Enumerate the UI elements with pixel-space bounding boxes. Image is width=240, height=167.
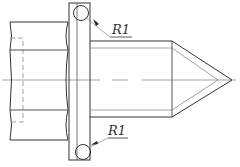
radius-annotation-top: R1	[85, 17, 132, 37]
shaft	[90, 41, 172, 117]
radius-circle-bottom	[76, 145, 91, 160]
technical-drawing: R1 R1	[0, 0, 240, 167]
hex-head	[10, 22, 68, 140]
radius-annotation-bottom: R1	[88, 123, 128, 148]
conical-tip	[172, 41, 232, 117]
flange-plate	[69, 3, 90, 160]
radius-label-top: R1	[111, 22, 130, 37]
radius-label-bottom: R1	[107, 123, 126, 138]
